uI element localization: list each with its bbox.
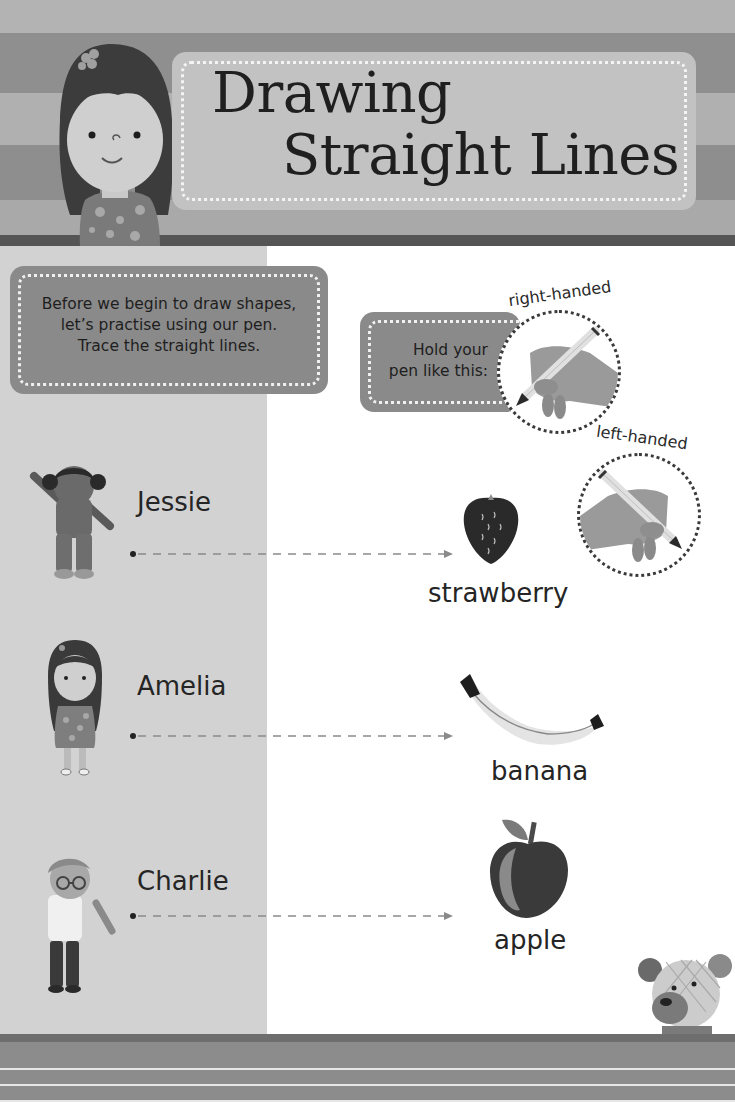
right-handed-label: right-handed (507, 277, 612, 310)
pen-grip-line: Hold your (360, 340, 488, 361)
pen-grip-text: Hold your pen like this: (360, 340, 488, 382)
left-hand-pen-icon (580, 456, 698, 574)
instructions-line: Before we begin to draw shapes, (10, 294, 328, 315)
page-title-line2: Straight Lines (282, 122, 679, 187)
fruit-word-banana: banana (491, 756, 588, 786)
header-stripe (0, 0, 735, 33)
pen-grip-line: pen like this: (360, 361, 488, 382)
pen-grip-callout: Hold your pen like this: (360, 312, 520, 412)
instructions-line: Trace the straight lines. (10, 336, 328, 357)
teddy-bear-icon (636, 952, 735, 1036)
apple-icon (486, 814, 572, 922)
page-title-line1: Drawing (212, 60, 451, 125)
title-box: Drawing Straight Lines (172, 52, 696, 210)
fruit-word-strawberry: strawberry (428, 578, 568, 608)
child-name-charlie: Charlie (137, 866, 229, 896)
footer-stripe (0, 1034, 735, 1042)
trace-line[interactable] (130, 910, 460, 922)
page-footer (0, 1034, 735, 1102)
amelia-character-icon (44, 636, 106, 778)
fruit-word-apple: apple (494, 925, 566, 955)
child-name-jessie: Jessie (137, 487, 211, 517)
page-header: Drawing Straight Lines (0, 0, 735, 246)
strawberry-icon (462, 494, 520, 566)
trace-line[interactable] (130, 548, 460, 560)
jessie-character-icon (26, 456, 118, 582)
charlie-character-icon (36, 855, 116, 995)
banana-icon (458, 672, 606, 758)
trace-line[interactable] (130, 730, 460, 742)
girl-illustration-icon (40, 40, 185, 246)
footer-line (0, 1084, 735, 1086)
right-hand-grip-illustration (497, 310, 621, 434)
child-name-amelia: Amelia (137, 671, 227, 701)
left-handed-label: left-handed (595, 422, 689, 454)
instructions-line: let’s practise using our pen. (10, 315, 328, 336)
instructions-callout: Before we begin to draw shapes, let’s pr… (10, 266, 328, 394)
left-hand-grip-illustration (577, 453, 701, 577)
instructions-text: Before we begin to draw shapes, let’s pr… (10, 294, 328, 357)
footer-line (0, 1068, 735, 1070)
right-hand-pen-icon (500, 313, 618, 431)
